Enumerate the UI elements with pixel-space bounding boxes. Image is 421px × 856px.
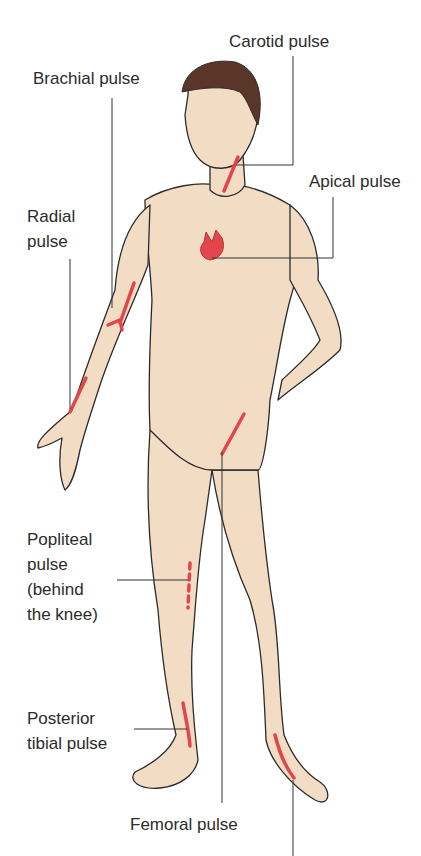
right-leg (212, 470, 328, 802)
label-brachial-pulse: Brachial pulse (33, 66, 140, 91)
torso (145, 184, 298, 470)
label-posterior-tibial-pulse: Posterior tibial pulse (27, 706, 107, 756)
label-apical-pulse: Apical pulse (309, 169, 401, 194)
label-radial-pulse: Radial pulse (27, 204, 75, 254)
label-carotid-pulse: Carotid pulse (229, 29, 329, 54)
popliteal-pulse-marker (188, 563, 190, 608)
label-popliteal-pulse: Popliteal pulse (behind the knee) (27, 527, 98, 627)
left-leg (133, 430, 212, 788)
label-femoral-pulse: Femoral pulse (130, 812, 238, 837)
